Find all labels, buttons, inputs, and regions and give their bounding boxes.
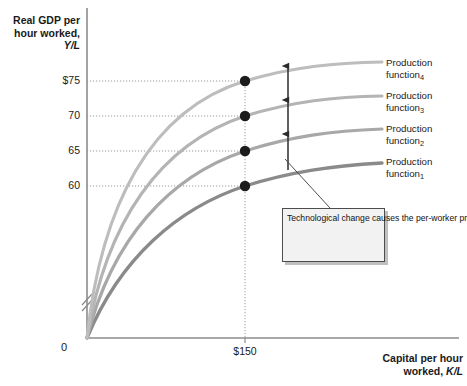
legend-label-3-index: 3 bbox=[420, 106, 424, 115]
x-axis-title-line1: Capital per hour bbox=[382, 352, 463, 364]
y-axis-title-units: Y/L bbox=[64, 39, 80, 51]
data-point-65 bbox=[240, 146, 250, 156]
y-tick-label-70: 70 bbox=[34, 109, 80, 121]
y-tick-label-65: 65 bbox=[34, 144, 80, 156]
legend-label-4-line1: Production bbox=[386, 57, 432, 68]
legend-label-production-function-3: Productionfunction3 bbox=[386, 90, 432, 114]
data-point-75 bbox=[240, 76, 250, 86]
legend-label-3-line2: function bbox=[386, 102, 420, 113]
legend-label-production-function-4: Productionfunction4 bbox=[386, 57, 432, 81]
legend-label-2-line1: Production bbox=[386, 123, 432, 134]
x-axis-title-line2: worked, bbox=[403, 365, 446, 377]
data-point-70 bbox=[240, 111, 250, 121]
origin-label: 0 bbox=[61, 341, 67, 353]
y-tick-label-60: 60 bbox=[34, 179, 80, 191]
legend-label-production-function-2: Productionfunction2 bbox=[386, 123, 432, 147]
legend-label-4-index: 4 bbox=[420, 73, 424, 82]
x-axis-title-units: K/L bbox=[446, 365, 463, 377]
legend-label-4-line2: function bbox=[386, 69, 420, 80]
legend-label-1-line1: Production bbox=[386, 156, 432, 167]
y-tick-label-75: $75 bbox=[34, 74, 80, 86]
figure-container: Real GDP perhour worked,Y/L Capital per … bbox=[0, 0, 467, 386]
legend-label-production-function-1: Productionfunction1 bbox=[386, 156, 432, 180]
x-axis-title: Capital per hourworked, K/L bbox=[355, 352, 463, 377]
data-point-60 bbox=[240, 181, 250, 191]
legend-label-2-index: 2 bbox=[420, 139, 424, 148]
legend-label-3-line1: Production bbox=[386, 90, 432, 101]
x-tick-label-150: $150 bbox=[225, 345, 265, 357]
y-axis-title-line1: Real GDP per bbox=[13, 14, 80, 26]
y-axis-title: Real GDP perhour worked,Y/L bbox=[2, 14, 80, 52]
callout-text: Technological change causes the per-work… bbox=[287, 213, 384, 224]
legend-label-2-line2: function bbox=[386, 135, 420, 146]
callout-leader-line bbox=[285, 159, 330, 208]
legend-label-1-index: 1 bbox=[420, 172, 424, 181]
curve-production-function-4 bbox=[87, 62, 382, 338]
gridlines-group bbox=[87, 81, 245, 338]
y-axis-title-line2: hour worked, bbox=[14, 27, 80, 39]
legend-label-1-line2: function bbox=[386, 168, 420, 179]
